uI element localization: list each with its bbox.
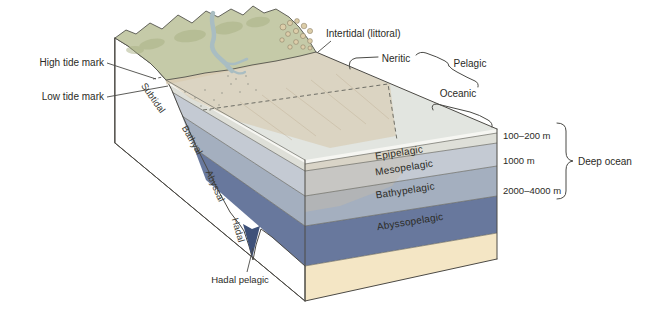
ocean-zones-diagram: High tide mark Low tide mark Intertidal … bbox=[0, 0, 664, 318]
depth-100-200-label: 100–200 m bbox=[503, 130, 551, 141]
depth-1000-label: 1000 m bbox=[503, 155, 535, 166]
neritic-label: Neritic bbox=[382, 53, 410, 64]
intertidal-leader bbox=[318, 41, 331, 52]
pelagic-brace-lower bbox=[449, 66, 478, 87]
neritic-bracket bbox=[349, 57, 378, 69]
high-tide-label: High tide mark bbox=[40, 57, 105, 68]
oceanic-label: Oceanic bbox=[440, 88, 477, 99]
high-tide-leader bbox=[107, 63, 156, 79]
intertidal-label: Intertidal (littoral) bbox=[326, 28, 400, 39]
depth-2000-4000-label: 2000–4000 m bbox=[503, 185, 561, 196]
pelagic-label: Pelagic bbox=[454, 58, 487, 69]
hadal-label: Hadal bbox=[230, 216, 247, 243]
pelagic-brace-upper bbox=[416, 52, 449, 66]
hadal-pelagic-leader bbox=[247, 248, 253, 272]
ocean-zones-figure: High tide mark Low tide mark Intertidal … bbox=[0, 0, 664, 318]
low-tide-label: Low tide mark bbox=[42, 91, 105, 102]
deep-ocean-label: Deep ocean bbox=[578, 156, 632, 167]
subtidal-label: Subtidal bbox=[139, 80, 168, 114]
hadal-pelagic-label: Hadal pelagic bbox=[211, 274, 269, 285]
